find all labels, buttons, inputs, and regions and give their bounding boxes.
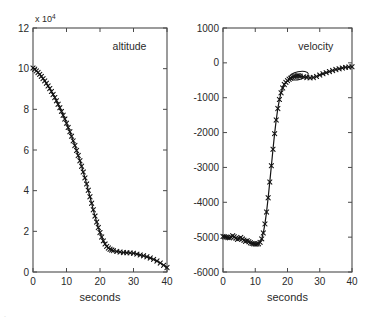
x-tick-label: 20 [94,276,106,287]
data-line [33,68,167,267]
altitude-panel: 010203040024681012x 104altitudeseconds [0,0,185,326]
x-tick-label: 40 [161,276,173,287]
y-tick-label: 2 [23,226,29,237]
data-markers [221,65,354,247]
y-exponent-sup: 4 [52,13,56,20]
x-tick-label: 0 [220,276,226,287]
altitude-chart: 010203040024681012x 104altitudeseconds [0,0,185,326]
y-tick-label: -2000 [193,127,219,138]
y-tick-label: -1000 [193,92,219,103]
y-tick-label: 0 [213,57,219,68]
figure-container: 010203040024681012x 104altitudeseconds 0… [0,0,370,326]
y-tick-label: -3000 [193,162,219,173]
data-line [223,67,352,244]
y-exponent-label: x 104 [35,13,56,25]
x-tick-label: 30 [314,276,326,287]
velocity-panel: 010203040-6000-5000-4000-3000-2000-10000… [185,0,370,326]
x-tick-label: 10 [61,276,73,287]
plot-title: velocity [298,40,334,52]
y-tick-label: 0 [23,267,29,278]
x-tick-label: 20 [282,276,294,287]
x-tick-label: 0 [30,276,36,287]
x-tick-label: 10 [250,276,262,287]
x-tick-label: 30 [128,276,140,287]
y-tick-label: 10 [18,63,30,74]
y-tick-label: 1000 [197,23,220,34]
y-tick-label: -6000 [193,267,219,278]
data-markers [31,66,169,270]
y-tick-label: 4 [23,185,29,196]
y-tick-label: 6 [23,145,29,156]
y-tick-label: -4000 [193,197,219,208]
x-tick-label: 40 [346,276,358,287]
y-tick-label: -5000 [193,232,219,243]
plot-title: altitude [113,40,147,52]
x-axis-label: seconds [80,291,121,303]
x-axis-label: seconds [267,291,308,303]
scan-corner-artifact: . [4,310,7,319]
y-tick-label: 8 [23,104,29,115]
y-tick-label: 12 [18,23,30,34]
velocity-chart: 010203040-6000-5000-4000-3000-2000-10000… [185,0,370,326]
